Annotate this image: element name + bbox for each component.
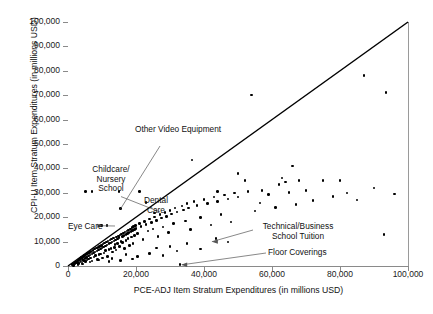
annotation-label: Dental Care	[136, 196, 176, 215]
annotation-leader-lines	[0, 0, 433, 314]
scatter-plot-figure: 010,00020,00030,00040,00050,00060,00070,…	[0, 0, 433, 314]
annotation-label: Childcare/ Nursery School	[79, 165, 143, 194]
annotation-label: Other Video Equipment	[135, 125, 205, 135]
annotation-label: Eye Care	[68, 222, 116, 232]
annotation-label: Technical/Business School Tuition	[255, 222, 341, 241]
annotation-label: Floor Coverings	[268, 248, 346, 258]
